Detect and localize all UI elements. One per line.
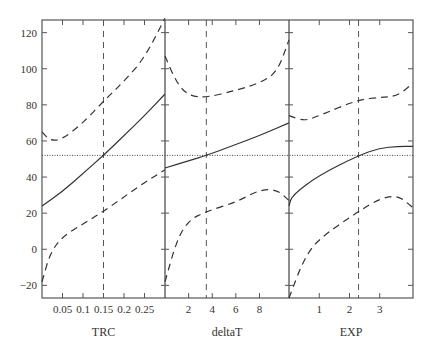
y-tick-label: 0 [32, 243, 38, 255]
x-tick-label: 0.2 [117, 303, 131, 315]
series-lower [165, 190, 289, 282]
x-tick-label: 2 [186, 303, 192, 315]
y-tick-label: 20 [26, 207, 38, 219]
x-tick-label: 0.05 [53, 303, 73, 315]
x-tick-label: 8 [257, 303, 263, 315]
x-tick-label: 3 [377, 303, 383, 315]
x-tick-label: 4 [209, 303, 215, 315]
x-tick-label: 0.25 [135, 303, 155, 315]
y-tick-label: 60 [26, 135, 38, 147]
y-tick-label: 80 [26, 99, 38, 111]
x-axis-label: deltaT [212, 325, 243, 339]
series-upper [165, 40, 289, 97]
x-tick-label: 6 [233, 303, 239, 315]
x-tick-label: 2 [347, 303, 353, 315]
series-upper [289, 83, 413, 120]
y-tick-label: 120 [21, 27, 38, 39]
chart: −200204060801001200.050.10.150.20.25TRC2… [0, 0, 434, 346]
x-tick-label: 0.1 [76, 303, 90, 315]
y-tick-label: 100 [21, 63, 38, 75]
y-tick-label: −20 [20, 279, 38, 291]
plot-frame [42, 20, 413, 298]
y-tick-label: 40 [26, 171, 38, 183]
x-tick-label: 1 [316, 303, 322, 315]
plot-area: −200204060801001200.050.10.150.20.25TRC2… [0, 0, 434, 346]
series-estimate [165, 123, 289, 168]
series-lower [289, 197, 413, 298]
x-axis-label: TRC [92, 325, 115, 339]
x-axis-label: EXP [340, 325, 363, 339]
x-tick-label: 0.15 [94, 303, 114, 315]
